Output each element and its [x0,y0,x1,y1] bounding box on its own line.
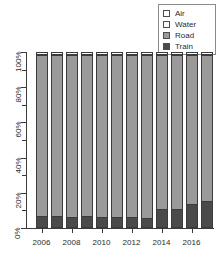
bar-segment-road [97,55,107,217]
x-axis-tick-label: 2006 [33,238,51,247]
bar-segment-train [112,217,122,227]
bar-segment-train [157,209,167,227]
y-axis-tick-label: 100% [14,52,23,72]
x-axis-tick-label: 2014 [153,238,171,247]
legend-item-water: Water [163,19,212,29]
bar-2017[interactable] [201,52,213,228]
bar-segment-road [202,55,212,201]
y-axis-minor-tick [22,210,26,211]
bar-segment-train [202,201,212,227]
y-axis-tick-label: 20% [14,192,23,208]
bar-2012[interactable] [126,52,138,228]
bar-2009[interactable] [81,52,93,228]
y-axis-line [26,52,27,228]
y-axis-tick-label: 40% [14,157,23,173]
bar-segment-road [82,55,92,216]
bar-segment-road [67,55,77,216]
bar-2013[interactable] [141,52,153,228]
y-axis-minor-tick [22,140,26,141]
x-axis-tick-label: 2008 [63,238,81,247]
y-axis-tick-label: 80% [14,87,23,103]
bar-segment-train [97,217,107,227]
bar-series-group [34,52,214,228]
bar-2010[interactable] [96,52,108,228]
bar-segment-road [187,55,197,204]
legend-swatch-air-icon [163,10,170,17]
bar-2011[interactable] [111,52,123,228]
y-axis-minor-tick [22,175,26,176]
bar-segment-road [127,55,137,217]
legend-item-road: Road [163,30,212,40]
legend-label-air: Air [175,9,185,18]
bar-segment-train [187,204,197,227]
bar-2014[interactable] [156,52,168,228]
x-axis-tick [192,229,193,233]
legend-item-air: Air [163,8,212,18]
bar-segment-train [67,217,77,227]
legend-label-train: Train [175,42,193,51]
legend-swatch-train-icon [163,43,170,50]
legend-item-train: Train [163,41,212,51]
x-axis-tick [72,229,73,233]
bar-2006[interactable] [36,52,48,228]
bar-2008[interactable] [66,52,78,228]
x-axis-tick [162,229,163,233]
bar-segment-train [142,218,152,227]
y-axis-tick-label: 60% [14,122,23,138]
legend-label-road: Road [175,31,194,40]
legend-label-water: Water [175,20,196,29]
bar-segment-train [172,209,182,227]
plot-area: 0%20%40%60%80%100% 200620082010201220142… [34,52,214,228]
x-axis-tick-label: 2016 [183,238,201,247]
x-axis-tick [42,229,43,233]
bar-segment-road [37,55,47,216]
bar-segment-train [52,216,62,227]
y-axis-minor-tick [22,105,26,106]
x-axis-line [26,228,214,229]
x-axis-tick [102,229,103,233]
x-axis-tick-label: 2012 [123,238,141,247]
bar-2016[interactable] [186,52,198,228]
legend-swatch-water-icon [163,21,170,28]
bar-segment-road [157,55,167,209]
bar-segment-road [142,55,152,218]
chart-legend: Air Water Road Train [158,4,216,55]
stacked-bar-chart: Air Water Road Train 0%20%40%60%80%100% … [0,0,220,278]
bar-segment-train [127,217,137,227]
x-axis-tick [132,229,133,233]
bar-segment-road [52,55,62,216]
legend-swatch-road-icon [163,32,170,39]
x-axis-tick-label: 2010 [93,238,111,247]
bar-segment-road [172,55,182,209]
bar-segment-road [112,55,122,217]
bar-2015[interactable] [171,52,183,228]
y-axis-tick-label: 0% [14,228,23,240]
bar-segment-train [37,216,47,227]
bar-2007[interactable] [51,52,63,228]
bar-segment-train [82,216,92,227]
